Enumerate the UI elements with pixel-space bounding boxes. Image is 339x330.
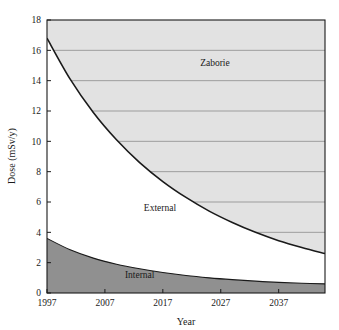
y-tick-label-14: 14 xyxy=(32,76,42,86)
dose-decay-area-chart: 024681012141618 19972007201720272037 Dos… xyxy=(0,0,339,330)
x-tick-label-2027: 2027 xyxy=(211,298,230,308)
region-label-internal: Internal xyxy=(125,270,155,280)
y-tick-label-0: 0 xyxy=(36,288,41,298)
y-tick-label-18: 18 xyxy=(32,15,42,25)
x-tick-label-2037: 2037 xyxy=(269,298,288,308)
y-tick-label-6: 6 xyxy=(36,197,41,207)
y-tick-label-12: 12 xyxy=(32,106,42,116)
y-tick-label-4: 4 xyxy=(36,228,41,238)
x-tick-label-2017: 2017 xyxy=(153,298,172,308)
region-label-external: External xyxy=(144,203,177,213)
region-label-zaborie: Zaborie xyxy=(200,58,230,68)
x-axis-title: Year xyxy=(177,316,196,327)
y-tick-label-16: 16 xyxy=(32,46,42,56)
x-tick-label-1997: 1997 xyxy=(38,298,57,308)
y-axis-title: Dose (mSv/y) xyxy=(6,128,18,184)
y-tick-label-10: 10 xyxy=(32,137,42,147)
y-tick-label-2: 2 xyxy=(36,258,41,268)
chart-figure: 024681012141618 19972007201720272037 Dos… xyxy=(0,0,339,330)
plot-area xyxy=(47,20,325,293)
y-tick-label-8: 8 xyxy=(36,167,41,177)
x-tick-label-2007: 2007 xyxy=(95,298,114,308)
